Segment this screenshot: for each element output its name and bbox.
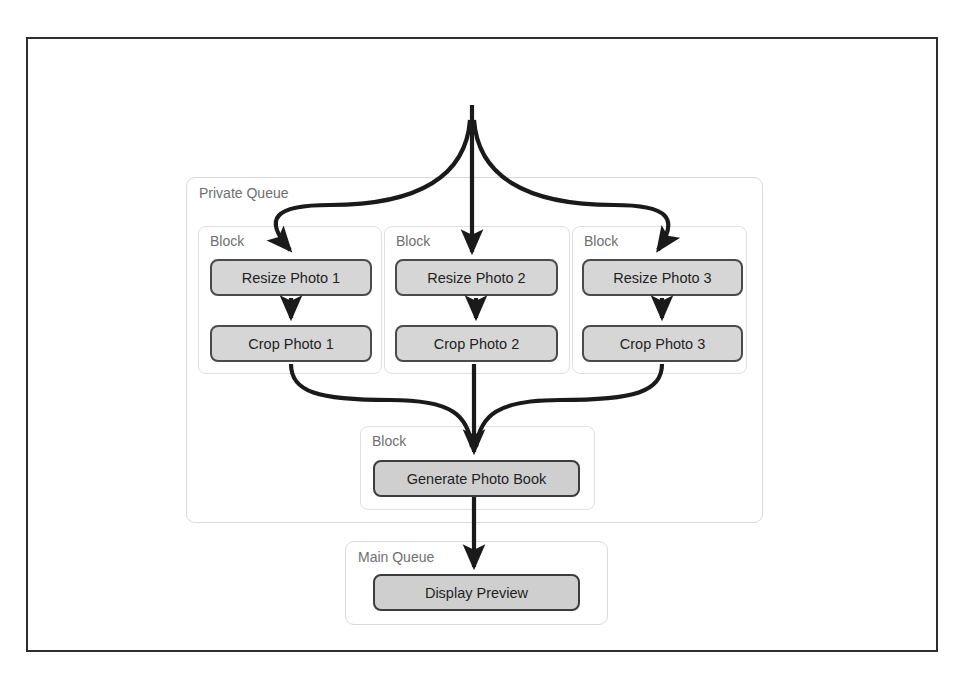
task-node-display-preview[interactable]: Display Preview (373, 574, 580, 611)
task-node-resize-photo-3[interactable]: Resize Photo 3 (582, 259, 743, 296)
task-node-crop-photo-2[interactable]: Crop Photo 2 (395, 325, 558, 362)
block-label-2: Block (396, 233, 430, 249)
task-node-generate-photo-book[interactable]: Generate Photo Book (373, 460, 580, 497)
task-node-crop-photo-1[interactable]: Crop Photo 1 (210, 325, 372, 362)
task-node-resize-photo-2[interactable]: Resize Photo 2 (395, 259, 558, 296)
block-label-merge: Block (372, 433, 406, 449)
task-node-resize-photo-1[interactable]: Resize Photo 1 (210, 259, 372, 296)
main-queue-label: Main Queue (358, 549, 434, 565)
task-node-crop-photo-3[interactable]: Crop Photo 3 (582, 325, 743, 362)
block-label-3: Block (584, 233, 618, 249)
private-queue-label: Private Queue (199, 185, 289, 201)
block-label-1: Block (210, 233, 244, 249)
